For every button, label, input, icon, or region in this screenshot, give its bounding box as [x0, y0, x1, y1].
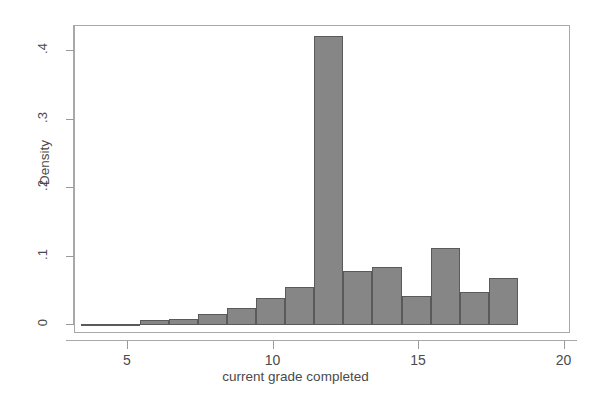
x-tick-label: 10	[253, 352, 293, 368]
x-tick-mark	[273, 341, 274, 349]
x-tick-label: 15	[398, 352, 438, 368]
histogram-bar	[343, 271, 372, 325]
histogram-bar	[460, 292, 489, 325]
histogram-bar	[372, 267, 401, 325]
y-tick-mark	[66, 256, 74, 257]
x-tick-mark	[418, 341, 419, 349]
histogram-bar	[227, 308, 256, 325]
histogram-bar	[285, 287, 314, 325]
histogram-bar	[402, 296, 431, 325]
histogram-bar	[111, 324, 140, 326]
histogram-bar	[81, 324, 110, 326]
histogram-bar	[169, 319, 198, 325]
histogram-bar	[314, 36, 343, 325]
histogram-bar	[489, 278, 518, 325]
y-axis-title: Density	[37, 103, 52, 223]
x-tick-label: 5	[107, 352, 147, 368]
x-tick-label: 20	[544, 352, 584, 368]
x-axis-title: current grade completed	[0, 369, 591, 384]
y-tick-mark	[66, 187, 74, 188]
histogram-bar	[140, 320, 169, 325]
y-tick-mark	[66, 324, 74, 325]
x-tick-mark	[564, 341, 565, 349]
y-tick-label: .4	[35, 29, 50, 69]
y-tick-label: 0	[35, 303, 50, 343]
x-axis-line	[66, 340, 577, 341]
histogram-bar	[256, 298, 285, 325]
plot-area	[75, 26, 569, 332]
x-tick-mark	[127, 341, 128, 349]
plot-frame	[74, 25, 570, 333]
y-tick-mark	[66, 50, 74, 51]
y-tick-mark	[66, 119, 74, 120]
histogram-bar	[198, 314, 227, 325]
y-tick-label: .1	[35, 234, 50, 274]
histogram-bar	[431, 248, 460, 325]
histogram-figure: 0.1.2.3.4 Density 5101520 current grade …	[0, 0, 591, 402]
y-axis-line	[73, 25, 74, 324]
